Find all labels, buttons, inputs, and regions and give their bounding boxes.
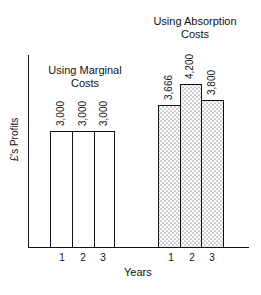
x-tick-absorption-3: 3 bbox=[205, 252, 219, 263]
value-label-absorption-3: 3,800 bbox=[206, 70, 217, 95]
value-label-marginal-1: 3,000 bbox=[55, 101, 66, 126]
x-tick-marginal-3: 3 bbox=[96, 252, 110, 263]
value-label-absorption-1: 3,666 bbox=[163, 75, 174, 100]
value-label-absorption-2: 4,200 bbox=[184, 54, 195, 79]
bar-absorption-1 bbox=[159, 106, 181, 248]
y-axis-label: £'s Profits bbox=[9, 110, 20, 170]
x-tick-absorption-1: 1 bbox=[164, 252, 178, 263]
absorption-title-line1: Using Absorption bbox=[145, 15, 245, 28]
x-tick-marginal-2: 2 bbox=[76, 252, 90, 263]
x-tick-absorption-2: 2 bbox=[185, 252, 199, 263]
bar-absorption-2 bbox=[181, 85, 202, 248]
marginal-title-line1: Using Marginal bbox=[40, 64, 130, 77]
x-axis-label: Years bbox=[124, 266, 152, 278]
chart-canvas bbox=[0, 0, 261, 295]
value-label-marginal-3: 3,000 bbox=[98, 101, 109, 126]
x-tick-marginal-1: 1 bbox=[55, 252, 69, 263]
bar-marginal-1 bbox=[51, 132, 73, 248]
value-label-marginal-2: 3,000 bbox=[77, 101, 88, 126]
marginal-group-title: Using Marginal Costs bbox=[40, 64, 130, 90]
bar-marginal-3 bbox=[95, 132, 115, 248]
absorption-group-title: Using Absorption Costs bbox=[145, 15, 245, 41]
bar-absorption-3 bbox=[202, 101, 224, 248]
bar-marginal-2 bbox=[73, 132, 95, 248]
absorption-title-line2: Costs bbox=[145, 28, 245, 41]
marginal-title-line2: Costs bbox=[40, 77, 130, 90]
